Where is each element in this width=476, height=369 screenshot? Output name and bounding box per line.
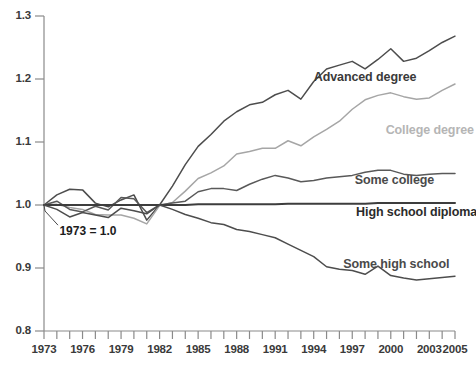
- y-tick-label: 1.2: [1, 72, 31, 84]
- series-label-high-school-diploma: High school diploma: [356, 205, 476, 219]
- y-tick-label: 0.9: [1, 261, 31, 273]
- x-tick-label: 1997: [335, 343, 369, 355]
- series-label-some-high-school: Some high school: [343, 257, 449, 271]
- x-tick-label: 2000: [374, 343, 408, 355]
- y-tick-label: 0.8: [1, 324, 31, 336]
- x-tick-label: 1991: [258, 343, 292, 355]
- x-tick-label: 2005: [438, 343, 472, 355]
- chart-container: 0.80.91.01.11.21.3 197319761979198219851…: [0, 0, 476, 369]
- baseline-annotation-label: 1973 = 1.0: [59, 224, 116, 238]
- x-tick-label: 1979: [104, 343, 138, 355]
- series-label-advanced-degree: Advanced degree: [314, 70, 417, 84]
- x-tick-label: 1982: [143, 343, 177, 355]
- x-tick-label: 1976: [66, 343, 100, 355]
- y-tick-label: 1.0: [1, 198, 31, 210]
- series-label-some-college: Some college: [355, 173, 434, 187]
- x-tick-label: 1985: [181, 343, 215, 355]
- series-label-college-degree: College degree: [386, 123, 474, 137]
- x-tick-label: 1973: [27, 343, 61, 355]
- x-tick-label: 1994: [297, 343, 331, 355]
- y-tick-label: 1.1: [1, 135, 31, 147]
- x-tick-label: 1988: [220, 343, 254, 355]
- y-tick-label: 1.3: [1, 9, 31, 21]
